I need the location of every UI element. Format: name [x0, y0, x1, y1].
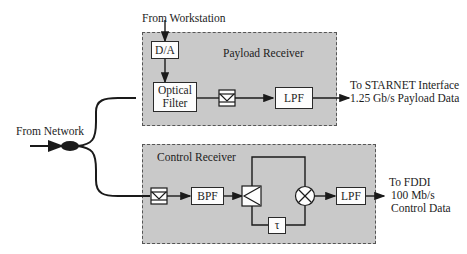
from-network-label: From Network	[16, 125, 84, 138]
fiber-coupler-icon	[61, 141, 79, 151]
control-lpf-label: LPF	[341, 190, 361, 203]
control-lpf-block: LPF	[336, 187, 366, 205]
payload-output-line1: To STARNET Interface	[350, 79, 459, 92]
receiver-block-diagram: From Workstation Payload Receiver From N…	[0, 0, 467, 254]
photodetector-icon	[219, 90, 235, 106]
da-converter-block: D/A	[151, 41, 179, 59]
bpf-block: BPF	[191, 187, 224, 205]
control-receiver-title: Control Receiver	[157, 151, 236, 164]
payload-lpf-block: LPF	[275, 87, 313, 109]
payload-receiver-title: Payload Receiver	[223, 47, 304, 60]
bpf-label: BPF	[197, 190, 217, 203]
mixer-icon	[296, 187, 315, 206]
optical-filter-block: Optical Filter	[153, 82, 197, 112]
control-output-line1: To FDDI	[389, 176, 431, 189]
delay-block: τ	[268, 217, 286, 234]
optical-filter-label-1: Optical	[158, 84, 192, 97]
delay-label: τ	[275, 219, 280, 232]
payload-lpf-label: LPF	[284, 92, 304, 105]
control-output-line2: 100 Mb/s	[391, 189, 435, 202]
control-output-line3: Control Data	[391, 202, 451, 215]
optical-filter-label-2: Filter	[163, 97, 188, 110]
da-label: D/A	[155, 44, 175, 57]
from-workstation-label: From Workstation	[142, 12, 226, 25]
payload-output-line2: 1.25 Gb/s Payload Data	[350, 92, 459, 105]
splitter-icon	[242, 186, 261, 206]
photodetector-icon	[151, 188, 167, 204]
